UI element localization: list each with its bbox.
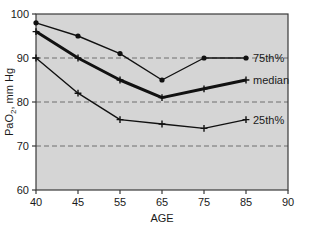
y-tick-label-90: 90 [17, 52, 29, 64]
data-point-marker [159, 77, 164, 82]
data-point-marker [75, 33, 80, 38]
series-label-75th-: 75th% [253, 52, 284, 64]
x-axis-title: AGE [150, 212, 173, 224]
x-tick-label-75: 75 [198, 196, 210, 208]
x-tick-label-55: 55 [114, 196, 126, 208]
series-label-25th-: 25th% [253, 114, 284, 126]
y-tick-label-80: 80 [17, 96, 29, 108]
x-tick-label-90: 90 [282, 196, 294, 208]
series-label-median: median [253, 74, 289, 86]
data-point-marker [243, 55, 248, 60]
y-tick-label-70: 70 [17, 140, 29, 152]
chart-container: 60708090100 40455565758590 75th%median25… [0, 0, 319, 225]
y-tick-label-100: 100 [11, 8, 29, 20]
data-point-marker [201, 55, 206, 60]
data-point-marker [33, 20, 38, 25]
pao2-vs-age-line-chart: 60708090100 40455565758590 75th%median25… [0, 0, 319, 225]
x-tick-label-65: 65 [156, 196, 168, 208]
data-point-marker [117, 51, 122, 56]
y-axis-title-main: PaO [3, 114, 15, 136]
y-axis-title-rest: , mm Hg [3, 68, 15, 110]
plot-area [36, 14, 288, 190]
x-tick-label-40: 40 [30, 196, 42, 208]
x-tick-label-85: 85 [240, 196, 252, 208]
y-tick-label-60: 60 [17, 184, 29, 196]
x-tick-label-45: 45 [72, 196, 84, 208]
